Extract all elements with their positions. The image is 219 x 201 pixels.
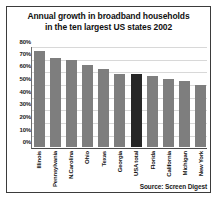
bar-michigan <box>179 81 190 147</box>
x-tick-pennsylvania: Pennsylvania <box>49 150 60 194</box>
bar-usa-total <box>131 74 142 147</box>
chart-figure: Annual growth in broadband households in… <box>6 6 211 193</box>
x-tick-label: Georgia <box>117 151 123 172</box>
x-tick-label: Pennsylvania <box>52 151 58 187</box>
chart-title-line-1: Annual growth in broadband households <box>11 11 206 22</box>
bar-illinois <box>34 51 45 147</box>
bar-n-carolina <box>66 60 77 147</box>
bar-georgia <box>114 74 125 147</box>
x-tick-n-carolina: N.Carolina <box>66 150 77 194</box>
bar-pennsylvania <box>50 58 61 147</box>
x-tick-label: Florida <box>150 151 156 170</box>
y-tick-60: 60% <box>9 63 31 69</box>
x-tick-illinois: Illinois <box>33 150 44 194</box>
x-tick-label: USA total <box>133 151 139 176</box>
plot-area <box>31 47 207 149</box>
y-tick-10: 10% <box>9 127 31 133</box>
y-tick-80: 80% <box>9 39 31 45</box>
y-tick-40: 40% <box>9 89 31 95</box>
x-tick-label: Ohio <box>84 151 90 164</box>
x-tick-label: California <box>166 151 172 177</box>
x-tick-label: Michigan <box>182 151 188 175</box>
bar-florida <box>147 76 158 147</box>
y-tick-70: 70% <box>9 51 31 57</box>
x-tick-label: Illinois <box>36 151 42 168</box>
bar-ohio <box>82 65 93 147</box>
chart-title-line-2: in the ten largest US states 2002 <box>11 22 206 33</box>
y-tick-20: 20% <box>9 114 31 120</box>
y-tick-0: 0% <box>9 139 31 145</box>
x-tick-ohio: Ohio <box>82 150 93 194</box>
y-tick-30: 30% <box>9 101 31 107</box>
source-note: Source: Screen Digest <box>140 183 207 190</box>
bar-new-york <box>195 85 206 147</box>
bar-texas <box>98 69 109 147</box>
x-tick-label: New York <box>198 151 204 176</box>
bar-series <box>33 47 207 147</box>
x-tick-georgia: Georgia <box>114 150 125 194</box>
x-tick-label: Texas <box>101 151 107 167</box>
bar-california <box>163 79 174 147</box>
y-tick-50: 50% <box>9 76 31 82</box>
chart-title: Annual growth in broadband households in… <box>11 11 206 33</box>
x-tick-texas: Texas <box>98 150 109 194</box>
plot-wrapper: 80% 70% 60% 50% 40% 30% 20% 10% 0% Illin… <box>7 39 210 192</box>
x-tick-label: N.Carolina <box>68 151 74 179</box>
y-axis: 80% 70% 60% 50% 40% 30% 20% 10% 0% <box>9 39 31 149</box>
